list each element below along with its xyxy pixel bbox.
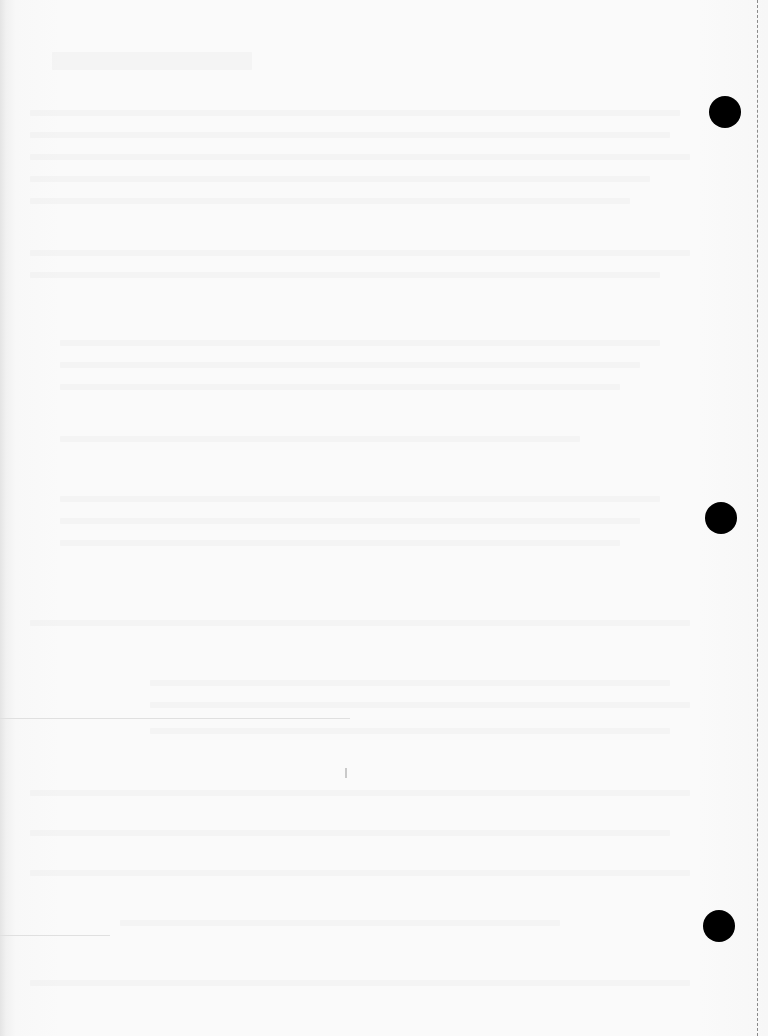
paper-speck bbox=[345, 768, 347, 778]
bleed-through-line bbox=[150, 702, 690, 708]
faint-horizontal-rule bbox=[0, 718, 350, 719]
bleed-through-line bbox=[30, 132, 670, 138]
bleed-through-line bbox=[30, 154, 690, 160]
binder-hole-middle bbox=[705, 502, 737, 534]
bleed-through-line bbox=[150, 680, 670, 686]
binder-hole-bottom bbox=[703, 910, 735, 942]
bleed-through-line bbox=[60, 518, 640, 524]
bleed-through-line bbox=[150, 728, 670, 734]
bleed-through-line bbox=[30, 870, 690, 876]
bleed-through-line bbox=[120, 920, 560, 926]
bleed-through-line bbox=[60, 496, 660, 502]
bleed-through-line bbox=[30, 830, 670, 836]
bleed-through-line bbox=[60, 340, 660, 346]
bleed-through-line bbox=[30, 272, 660, 278]
bleed-through-heading bbox=[52, 52, 252, 70]
bleed-through-line bbox=[30, 790, 690, 796]
bleed-through-line bbox=[30, 250, 690, 256]
scanned-sheet bbox=[0, 0, 768, 1036]
bleed-through-line bbox=[60, 384, 620, 390]
bleed-through-line bbox=[30, 176, 650, 182]
faint-horizontal-rule bbox=[0, 935, 110, 936]
bleed-through-line bbox=[60, 362, 640, 368]
bleed-through-line bbox=[30, 980, 690, 986]
bleed-through-line bbox=[30, 198, 630, 204]
bleed-through-line bbox=[30, 620, 690, 626]
bleed-through-line bbox=[60, 540, 620, 546]
binder-hole-top bbox=[709, 96, 741, 128]
bleed-through-line bbox=[30, 110, 680, 116]
perforation-line bbox=[757, 0, 758, 1036]
bleed-through-line bbox=[60, 436, 580, 442]
